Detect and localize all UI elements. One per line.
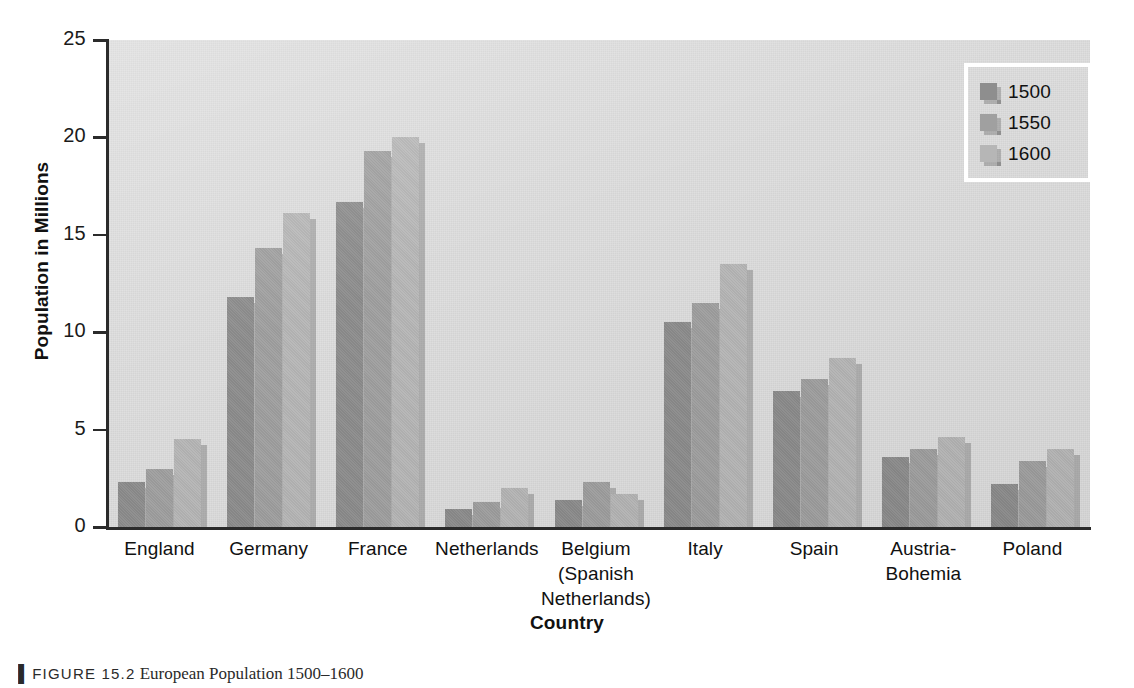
bar-france-1500 — [336, 202, 363, 527]
y-axis-tick — [93, 429, 107, 432]
legend-item-1550: 1550 — [980, 107, 1078, 138]
bar-england-1600 — [174, 439, 201, 527]
bar-group — [555, 40, 638, 527]
figure-caption: ▌ FIGURE 15.2 European Population 1500–1… — [18, 664, 1118, 684]
bar-group — [118, 40, 201, 527]
y-axis-tick-label: 5 — [40, 417, 86, 440]
legend-swatch-icon — [980, 114, 997, 131]
y-axis-tick-label: 25 — [40, 27, 86, 50]
bar-shadow — [638, 500, 644, 527]
bar-face — [118, 482, 145, 527]
bar-face — [473, 502, 500, 527]
y-axis-tick — [93, 136, 107, 139]
bar-shadow — [856, 364, 862, 527]
bar-face — [991, 484, 1018, 527]
bar-face — [146, 469, 173, 527]
bar-group — [445, 40, 528, 527]
caption-title: European Population 1500–1600 — [140, 664, 364, 683]
caption-marker-icon: ▌ — [18, 664, 28, 684]
bar-france-1550 — [364, 151, 391, 527]
bar-shadow — [419, 143, 425, 527]
y-axis-tick — [93, 526, 107, 529]
legend-item-1500: 1500 — [980, 76, 1078, 107]
bar-face — [910, 449, 937, 527]
legend-swatch-icon — [980, 145, 997, 162]
bar-poland-1500 — [991, 484, 1018, 527]
legend-label: 1600 — [1008, 143, 1051, 165]
bar-belgium-spanish-netherlands-1550 — [583, 482, 610, 527]
bar-austria-bohemia-1550 — [910, 449, 937, 527]
bar-face — [829, 358, 856, 527]
y-axis-tick — [93, 331, 107, 334]
bar-netherlands-1550 — [473, 502, 500, 527]
bar-face — [692, 303, 719, 527]
bar-group — [664, 40, 747, 527]
bar-face — [283, 213, 310, 527]
bar-face — [583, 482, 610, 527]
bar-face — [773, 391, 800, 527]
bar-italy-1550 — [692, 303, 719, 527]
bar-group — [882, 40, 965, 527]
bar-shadow — [310, 219, 316, 527]
bar-germany-1500 — [227, 297, 254, 527]
bar-face — [938, 437, 965, 527]
bar-face — [611, 494, 638, 527]
bar-face — [445, 509, 472, 527]
bar-england-1500 — [118, 482, 145, 527]
bar-face — [336, 202, 363, 527]
y-axis-tick-label: 0 — [40, 514, 86, 537]
y-axis-line — [106, 39, 109, 529]
bar-shadow — [528, 494, 534, 527]
bar-england-1550 — [146, 469, 173, 527]
x-axis-title: Country — [0, 612, 1134, 634]
x-axis-line — [106, 527, 1091, 530]
bar-face — [1019, 461, 1046, 527]
bar-group — [773, 40, 856, 527]
legend: 150015501600 — [964, 63, 1092, 182]
bar-face — [255, 248, 282, 527]
bar-shadow — [965, 443, 971, 527]
bar-poland-1550 — [1019, 461, 1046, 527]
bar-spain-1600 — [829, 358, 856, 527]
bar-poland-1600 — [1047, 449, 1074, 527]
bar-germany-1550 — [255, 248, 282, 527]
bar-face — [501, 488, 528, 527]
plot-area — [108, 40, 1090, 527]
bar-group — [336, 40, 419, 527]
bar-belgium-spanish-netherlands-1500 — [555, 500, 582, 527]
bar-face — [555, 500, 582, 527]
bar-austria-bohemia-1600 — [938, 437, 965, 527]
caption-figure-number: FIGURE 15.2 — [32, 665, 135, 682]
bar-shadow — [201, 445, 207, 527]
bar-group — [227, 40, 310, 527]
y-axis-tick — [93, 39, 107, 42]
bar-face — [801, 379, 828, 527]
y-axis-tick — [93, 234, 107, 237]
bar-france-1600 — [392, 137, 419, 527]
y-axis-title: Population in Millions — [31, 131, 53, 391]
bar-face — [227, 297, 254, 527]
bar-face — [392, 137, 419, 527]
figure-container: 0510152025 Population in Millions Countr… — [0, 0, 1134, 688]
bar-face — [720, 264, 747, 527]
legend-item-1600: 1600 — [980, 138, 1078, 169]
bar-shadow — [1074, 455, 1080, 527]
bar-face — [174, 439, 201, 527]
legend-label: 1550 — [1008, 112, 1051, 134]
bar-italy-1500 — [664, 322, 691, 527]
bar-face — [882, 457, 909, 527]
bar-face — [364, 151, 391, 527]
bar-italy-1600 — [720, 264, 747, 527]
bar-germany-1600 — [283, 213, 310, 527]
legend-swatch-icon — [980, 83, 997, 100]
bar-spain-1500 — [773, 391, 800, 527]
bar-austria-bohemia-1500 — [882, 457, 909, 527]
bar-netherlands-1500 — [445, 509, 472, 527]
bar-face — [664, 322, 691, 527]
bar-belgium-spanish-netherlands-1600 — [611, 494, 638, 527]
x-axis-label-poland: Poland — [942, 536, 1122, 561]
bar-netherlands-1600 — [501, 488, 528, 527]
legend-label: 1500 — [1008, 81, 1051, 103]
bar-shadow — [747, 270, 753, 527]
bar-face — [1047, 449, 1074, 527]
